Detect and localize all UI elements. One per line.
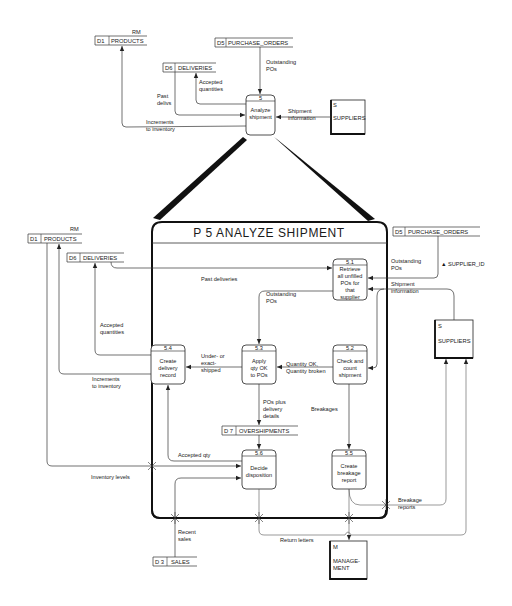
explosion-wedge-left [153,137,247,220]
flow-label: Shipment [288,108,312,114]
external-name: MENT [333,565,350,571]
process-label: breakage [337,470,360,476]
store-id: D 7 [224,428,233,434]
process-number: 5.3 [255,345,263,351]
store-name: DELIVERIES [83,255,117,261]
flow-label: information [288,115,316,121]
store-id: D5 [217,40,224,46]
flow-label: quantities [100,329,124,335]
store-d5-purchase-orders-top[interactable]: D5 PURCHASE_ORDERS [215,38,293,47]
external-suppliers[interactable]: S SUPPLIERS [435,320,473,358]
explosion-wedge-right [274,137,375,221]
store-id: D5 [395,229,402,235]
flow-label: Quantity OK, [286,361,318,367]
store-id: D1 [30,236,37,242]
flow-label: POs plus [263,399,286,405]
process-5-analyze-shipment[interactable]: 5 Analyze shipment [246,95,275,135]
data-flow-diagram: D1 PRODUCTS RM D5 PURCHASE_ORDERS D6 DEL… [0,0,512,606]
external-name: MANAGE- [333,558,360,564]
external-name: SUPPLIERS [438,338,471,344]
flow-label: Return letters [280,537,314,543]
process-5-2[interactable]: 5.2 Check and count shipment [333,345,367,384]
external-suppliers-top[interactable]: S SUPPLIERS [331,100,366,134]
flow-label: Increments [92,376,120,382]
process-label: Check and [337,358,364,364]
flow-label: Accepted [199,79,222,85]
process-label: to POs [250,372,267,378]
process-label: Analyze [251,107,271,113]
flow-label: quantities [199,86,223,92]
process-label: shipment [249,114,272,120]
store-id: D6 [69,255,76,261]
process-number: 5.5 [345,450,353,456]
page-title: P 5 ANALYZE SHIPMENT [193,226,345,240]
store-d6-deliveries[interactable]: D6 DELIVERIES [67,253,124,262]
flow-label: Accepted qty [178,452,211,458]
store-d1-products-top[interactable]: D1 PRODUCTS RM [95,29,147,45]
store-d5-purchase-orders[interactable]: D5 PURCHASE_ORDERS [393,227,480,236]
external-management[interactable]: M MANAGE- MENT [330,541,367,579]
flow-label: POs [266,298,277,304]
process-label: report [342,477,357,483]
process-label: count [343,365,357,371]
external-id: M [333,544,338,550]
process-5-3[interactable]: 5.3 Apply qty OK to POs [242,345,276,384]
process-label: that [345,287,355,293]
external-id: S [333,102,337,108]
process-5-6[interactable]: 5.6 Decide disposition [242,450,276,489]
flow-label: Outstanding [266,59,296,65]
process-number: 5.1 [346,259,354,265]
flow-label: Past deliveries [201,276,238,282]
top-context-diagram: D1 PRODUCTS RM D5 PURCHASE_ORDERS D6 DEL… [95,29,375,221]
detail-diagram: P 5 ANALYZE SHIPMENT D1 PRODUCTS RM D6 D… [28,222,484,579]
external-name: SUPPLIERS [333,115,366,121]
flow-label: Inventory levels [91,474,130,480]
flow-label: Under- or [201,353,225,359]
flow-label: Recent [178,529,196,535]
flow-label: Shipment [391,281,415,287]
store-d3-sales[interactable]: D 3 SALES [153,557,197,566]
process-label: all unfilled [338,273,363,279]
flow-label: sales [178,536,191,542]
top-flows: Outstanding POs Accepted quantities Past… [122,46,331,132]
store-id: D6 [165,65,172,71]
process-label: disposition [246,472,272,478]
store-name: PRODUCTS [111,38,144,44]
store-name: PRODUCTS [44,236,77,242]
process-label: qty OK [250,365,267,371]
process-number: 5.4 [164,345,172,351]
flow-label: Quantity broken [286,368,326,374]
process-5-4[interactable]: 5.4 Create delivery record [151,345,185,384]
flow-label: Past [157,93,169,99]
flow-label: Outstanding [266,291,296,297]
flow-label: Increments [146,119,174,125]
flow-label: Accepted [100,322,123,328]
store-name: OVERSHIPMENTS [239,428,289,434]
flow-label: reports [398,504,416,510]
external-id: S [438,323,442,329]
store-d6-deliveries-top[interactable]: D6 DELIVERIES [163,63,216,72]
store-d1-products[interactable]: D1 PRODUCTS RM [28,226,82,243]
process-number: 5 [259,95,262,101]
boundary-bus [152,510,386,518]
flow-label: Breakages [311,406,338,412]
store-d7-overshipments[interactable]: D 7 OVERSHIPMENTS [222,426,298,435]
store-tag: RM [70,226,79,232]
store-name: PURCHASE_ORDERS [228,40,288,46]
flow-label: details [263,413,279,419]
process-number: 5.2 [346,345,354,351]
store-name: PURCHASE_ORDERS [408,229,468,235]
process-label: Retrieve [340,266,361,272]
process-5-1[interactable]: 5.1 Retrieve all unfilled POs for that s… [333,259,367,300]
flow-label: to inventory [92,383,121,389]
process-label: POs for [341,280,360,286]
flow-label: Outstanding [391,258,421,264]
flow-label: ▲ SUPPLIER_ID [441,261,484,267]
flow-label: POs [391,265,402,271]
process-5-5[interactable]: 5.5 Create breakage report [332,450,366,489]
store-id: D 3 [155,559,164,565]
flow-label: information [391,288,419,294]
flow-label: delivs [157,100,172,106]
process-number: 5.6 [255,450,263,456]
flow-label: to inventory [146,126,175,132]
